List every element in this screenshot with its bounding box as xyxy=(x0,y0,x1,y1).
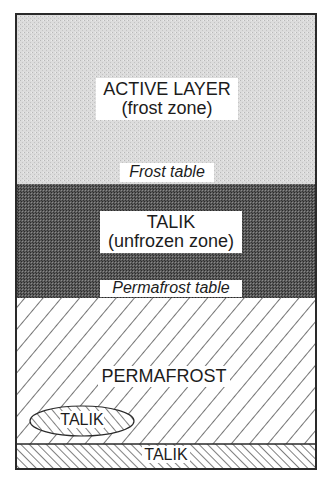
frost-table-label: Frost table xyxy=(120,163,214,182)
talik-zone-subtitle: (unfrozen zone) xyxy=(100,232,242,251)
permafrost-table-text: Permafrost table xyxy=(112,279,229,296)
active-layer-label: ACTIVE LAYER (frost zone) xyxy=(96,78,238,120)
talik-zone-label: TALIK (unfrozen zone) xyxy=(100,211,242,253)
talik-zone-title: TALIK xyxy=(100,213,242,232)
permafrost-label: PERMAFROST xyxy=(98,366,230,387)
permafrost-table-label: Permafrost table xyxy=(100,280,242,297)
permafrost-profile-diagram: ACTIVE LAYER (frost zone) Frost table TA… xyxy=(0,0,324,484)
active-layer-subtitle: (frost zone) xyxy=(96,99,238,118)
frost-table-text: Frost table xyxy=(129,163,205,180)
permafrost-title: PERMAFROST xyxy=(101,366,226,386)
talik-bottom-title: TALIK xyxy=(142,446,189,463)
talik-bottom-label: TALIK xyxy=(136,447,196,464)
talik-lens-title: TALIK xyxy=(60,411,103,428)
active-layer-title: ACTIVE LAYER xyxy=(96,80,238,99)
talik-lens-label: TALIK xyxy=(52,412,112,429)
